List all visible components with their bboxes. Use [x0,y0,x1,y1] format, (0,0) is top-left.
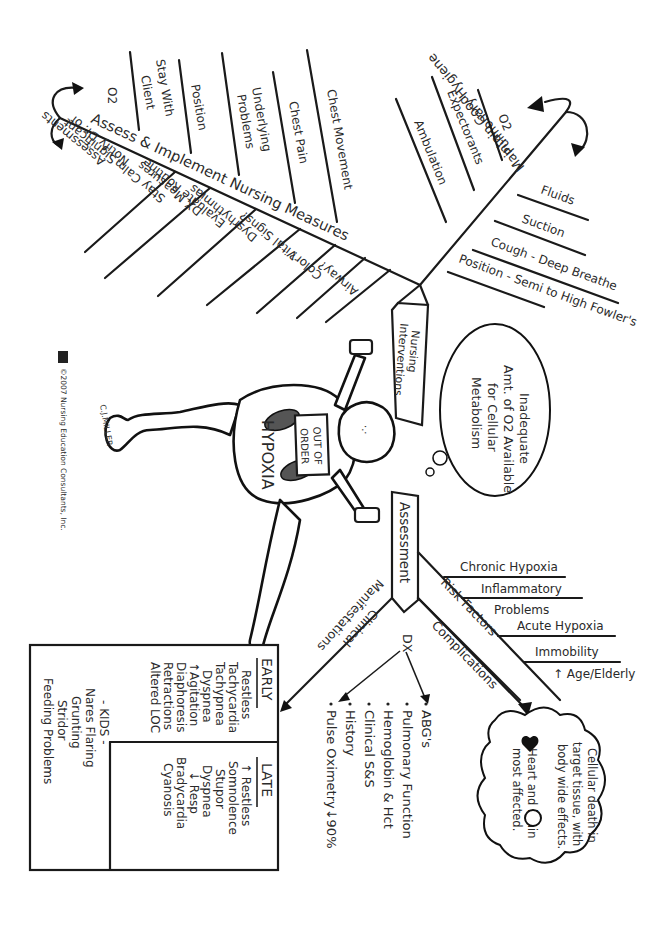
svg-text:Grunting: Grunting [69,696,83,749]
complications-branch: Complications Cellular death in target t… [418,598,605,863]
svg-text:Dyspnea: Dyspnea [200,670,214,723]
svg-text:Feeding Problems: Feeding Problems [41,678,55,784]
branch-o2: O2 [105,87,119,104]
svg-text:Cellular death in: Cellular death in [585,748,599,843]
assessment-label: Assessment [397,502,413,583]
assess-implement-fishbone: Assess & Implement Nursing Measures O2 S… [38,50,420,322]
svg-text:Hemoglobin & Hct: Hemoglobin & Hct [381,710,396,829]
branch-stay-with-client: Stay With Client [138,58,177,117]
out-of-order-sign: OUT OF ORDER [295,414,329,475]
svg-text:Stridor: Stridor [55,700,69,741]
pulmonary-hygiene-fishbone: Maintain Good Pulmonary Hygiene Ambulati… [396,51,639,330]
svg-text:Stupor: Stupor [213,769,227,809]
nursing-interventions-sign: Nursing Interventions [391,285,428,425]
risk-immobility: Immobility [535,645,599,659]
copyright-block: ©2007 Nursing Education Consultants, Inc… [58,351,68,531]
brain-icon [525,810,541,826]
svg-text:Problems: Problems [494,603,549,617]
dx-branch: DX ABG's Pulmonary Function Hemoglobin &… [324,634,434,849]
svg-text:·.·: ·.· [360,425,371,435]
svg-text:most affected.: most affected. [510,748,524,831]
svg-text:Retractions: Retractions [161,662,175,730]
branch-suction: Suction [520,212,567,240]
svg-text:Client: Client [138,74,158,111]
svg-text:Dyspnea: Dyspnea [200,765,214,818]
svg-text:ABG's: ABG's [419,710,434,748]
risk-chronic-hypoxia: Chronic Hypoxia [460,560,558,574]
svg-text:Clinical S&S: Clinical S&S [362,710,377,788]
svg-text:History: History [343,710,358,757]
svg-text:LATE: LATE [259,763,275,797]
nec-logo-icon [58,351,68,363]
svg-text:Bradycardia: Bradycardia [174,757,188,829]
svg-text:OUT OF: OUT OF [311,427,323,466]
svg-text:Inflammatory: Inflammatory [481,582,562,596]
assessment-sign: Assessment [392,492,418,612]
svg-text:↓ Resp: ↓ Resp [187,771,201,814]
risk-age-elderly: ↑ Age/Elderly [553,667,635,681]
svg-text:Somnolence: Somnolence [226,761,240,835]
thought-bubble: Inadequate Amt. of O2 Available for Cell… [426,324,550,496]
hypoxia-title: HYPOXIA [258,420,277,490]
branch-airway: Airway? [315,258,360,299]
arrowhead-icon [72,82,84,95]
svg-text:Altered LOC: Altered LOC [148,662,162,733]
branch-position: Position [188,83,210,131]
svg-text:Metabolism: Metabolism [469,377,484,449]
svg-text:Tachycardia: Tachycardia [226,661,240,733]
dx-label: DX [400,634,415,653]
svg-text:Nares Flaring: Nares Flaring [83,688,97,768]
arrowhead-icon [527,96,544,112]
assess-spine-line [60,118,420,285]
risk-inflammatory-problems: Inflammatory Problems [481,582,562,617]
svg-text:Cyanosis: Cyanosis [161,763,175,817]
dx-list: ABG's Pulmonary Function Hemoglobin & Hc… [324,702,434,848]
svg-text:Inadequate: Inadequate [517,393,532,464]
svg-text:Amt. of O2 Available: Amt. of O2 Available [501,365,516,493]
svg-text:Pulmonary Function: Pulmonary Function [400,710,415,839]
risk-acute-hypoxia: Acute Hypoxia [517,619,604,633]
svg-text:Tachypnea: Tachypnea [213,661,227,726]
hypoxia-concept-map: Assess & Implement Nursing Measures O2 S… [0,0,666,929]
risk-factors-fishbone: Risk Factors Chronic Hypoxia Inflammator… [418,552,635,700]
curved-arrow-icon [545,99,570,112]
svg-text:↑Agitation: ↑Agitation [187,662,201,726]
svg-text:Pulse Oximetry↓90%: Pulse Oximetry↓90% [324,710,339,849]
svg-text:for Cellular: for Cellular [485,383,500,453]
copyright-text: ©2007 Nursing Education Consultants, Inc… [59,368,68,531]
svg-text:↑ Restless: ↑ Restless [239,763,253,826]
svg-text:EARLY: EARLY [259,658,275,701]
svg-text:Restless: Restless [239,670,253,719]
branch-underlying-problems: Underlying Problems [234,86,274,153]
svg-text:Diaphoresis: Diaphoresis [174,662,188,732]
svg-text:- KIDS -: - KIDS - [97,700,111,745]
svg-text:ORDER: ORDER [298,428,310,464]
branch-chest-pain: Chest Pain [286,100,311,165]
svg-text:Stay With: Stay With [153,58,177,117]
svg-text:target tissue, with: target tissue, with [570,742,584,846]
curved-arrow-icon [566,112,587,150]
svg-text:body wide effects.: body wide effects. [555,744,569,849]
